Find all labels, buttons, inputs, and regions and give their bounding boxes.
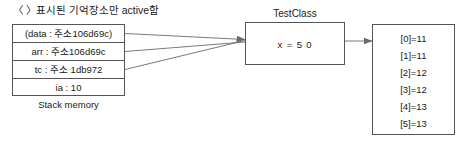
stack-row: ia : 10	[13, 79, 124, 97]
array-entry: [2]=12	[373, 64, 454, 81]
array-entry: [5]=13	[373, 115, 454, 132]
stack-row: tc : 주소 1db972	[13, 61, 124, 79]
stack-row: arr : 주소106d69c	[13, 43, 124, 61]
array-entry: [3]=12	[373, 81, 454, 98]
array-object-box: [0]=11 [1]=11 [2]=12 [3]=12 [4]=13 [5]=1…	[372, 24, 455, 135]
array-entry: [1]=11	[373, 47, 454, 64]
stack-row: (data : 주소106d69c)	[13, 25, 124, 43]
stack-memory-box: (data : 주소106d69c) arr : 주소106d69c tc : …	[12, 24, 125, 96]
connector-tc-to-testclass	[125, 41, 245, 70]
testclass-field-x: x = 5 0	[245, 39, 345, 50]
header-note: 〈 〉표시된 기억장소만 active함	[13, 4, 159, 17]
stack-memory-caption: Stack memory	[12, 99, 125, 111]
array-entry: [0]=11	[373, 30, 454, 47]
connector-arr-to-testclass	[125, 42, 245, 52]
testclass-title: TestClass	[245, 8, 345, 20]
connector-data-to-testclass	[125, 34, 245, 40]
array-entry: [4]=13	[373, 98, 454, 115]
diagram-canvas: 〈 〉표시된 기억장소만 active함 (data : 주소106d69c) …	[0, 0, 466, 142]
